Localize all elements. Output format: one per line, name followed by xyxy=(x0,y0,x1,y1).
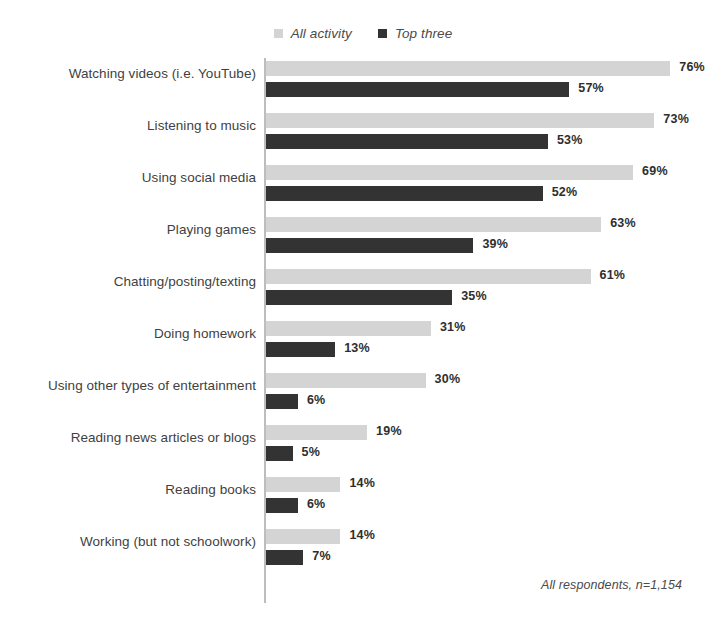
bar-row: Working (but not schoolwork)14%7% xyxy=(0,526,726,578)
bar-group-top3: 7% xyxy=(266,550,726,565)
bar-group-all: 31% xyxy=(266,321,726,336)
category-label: Reading news articles or blogs xyxy=(16,430,256,446)
bar-row: Using other types of entertainment30%6% xyxy=(0,370,726,422)
bar-row: Playing games63%39% xyxy=(0,214,726,266)
bar-top3 xyxy=(266,394,298,409)
bar-rows: Watching videos (i.e. YouTube)76%57%List… xyxy=(0,58,726,578)
bar-row: Chatting/posting/texting61%35% xyxy=(0,266,726,318)
bar-value-label: 69% xyxy=(642,164,668,178)
chart-legend: All activity Top three xyxy=(0,26,726,41)
bar-all xyxy=(266,165,633,180)
bar-group-top3: 35% xyxy=(266,290,726,305)
bar-group-all: 14% xyxy=(266,529,726,544)
plot-area: Watching videos (i.e. YouTube)76%57%List… xyxy=(0,58,726,603)
bar-all xyxy=(266,373,426,388)
bar-value-label: 57% xyxy=(578,81,604,95)
bar-value-label: 61% xyxy=(600,268,626,282)
category-label: Using social media xyxy=(16,170,256,186)
bar-group-top3: 13% xyxy=(266,342,726,357)
bar-all xyxy=(266,269,591,284)
bar-all xyxy=(266,321,431,336)
bar-value-label: 7% xyxy=(312,549,330,563)
legend-label-top-three: Top three xyxy=(395,26,452,41)
bar-value-label: 52% xyxy=(552,185,578,199)
bar-value-label: 39% xyxy=(482,237,508,251)
bar-value-label: 31% xyxy=(440,320,466,334)
legend-swatch-top-three xyxy=(378,29,387,38)
bar-all xyxy=(266,113,654,128)
bar-group-all: 63% xyxy=(266,217,726,232)
category-label: Reading books xyxy=(16,482,256,498)
chart-container: All activity Top three Watching videos (… xyxy=(0,0,726,634)
bar-value-label: 76% xyxy=(679,60,705,74)
bar-value-label: 35% xyxy=(461,289,487,303)
category-label: Chatting/posting/texting xyxy=(16,274,256,290)
bar-group-all: 61% xyxy=(266,269,726,284)
bar-row: Listening to music73%53% xyxy=(0,110,726,162)
bar-group-top3: 53% xyxy=(266,134,726,149)
bar-value-label: 19% xyxy=(376,424,402,438)
legend-swatch-all-activity xyxy=(274,29,283,38)
bar-group-top3: 39% xyxy=(266,238,726,253)
bar-top3 xyxy=(266,498,298,513)
bar-row: Using social media69%52% xyxy=(0,162,726,214)
bar-all xyxy=(266,217,601,232)
bar-group-top3: 5% xyxy=(266,446,726,461)
bar-value-label: 53% xyxy=(557,133,583,147)
bar-group-all: 76% xyxy=(266,61,726,76)
bar-group-top3: 52% xyxy=(266,186,726,201)
bar-all xyxy=(266,529,340,544)
category-label: Listening to music xyxy=(16,118,256,134)
bar-value-label: 14% xyxy=(349,528,375,542)
bar-value-label: 63% xyxy=(610,216,636,230)
bar-top3 xyxy=(266,446,293,461)
bar-all xyxy=(266,477,340,492)
bar-top3 xyxy=(266,342,335,357)
legend-item-top-three: Top three xyxy=(378,26,452,41)
bar-value-label: 6% xyxy=(307,497,325,511)
legend-item-all-activity: All activity xyxy=(274,26,352,41)
bar-value-label: 30% xyxy=(435,372,461,386)
bar-all xyxy=(266,425,367,440)
bar-row: Reading news articles or blogs19%5% xyxy=(0,422,726,474)
category-label: Working (but not schoolwork) xyxy=(16,534,256,550)
bar-group-top3: 57% xyxy=(266,82,726,97)
bar-row: Reading books14%6% xyxy=(0,474,726,526)
bar-value-label: 13% xyxy=(344,341,370,355)
legend-label-all-activity: All activity xyxy=(291,26,352,41)
bar-top3 xyxy=(266,290,452,305)
category-label: Playing games xyxy=(16,222,256,238)
bar-row: Doing homework31%13% xyxy=(0,318,726,370)
bar-row: Watching videos (i.e. YouTube)76%57% xyxy=(0,58,726,110)
bar-group-top3: 6% xyxy=(266,394,726,409)
bar-group-all: 19% xyxy=(266,425,726,440)
bar-group-all: 73% xyxy=(266,113,726,128)
category-label: Doing homework xyxy=(16,326,256,342)
chart-footnote: All respondents, n=1,154 xyxy=(541,578,682,592)
bar-value-label: 14% xyxy=(349,476,375,490)
bar-top3 xyxy=(266,82,569,97)
bar-top3 xyxy=(266,550,303,565)
bar-value-label: 73% xyxy=(663,112,689,126)
bar-top3 xyxy=(266,186,543,201)
bar-group-all: 69% xyxy=(266,165,726,180)
category-label: Using other types of entertainment xyxy=(16,378,256,394)
bar-all xyxy=(266,61,670,76)
bar-value-label: 6% xyxy=(307,393,325,407)
bar-group-top3: 6% xyxy=(266,498,726,513)
bar-value-label: 5% xyxy=(302,445,320,459)
bar-top3 xyxy=(266,238,473,253)
bar-group-all: 14% xyxy=(266,477,726,492)
bar-top3 xyxy=(266,134,548,149)
category-label: Watching videos (i.e. YouTube) xyxy=(16,66,256,82)
bar-group-all: 30% xyxy=(266,373,726,388)
